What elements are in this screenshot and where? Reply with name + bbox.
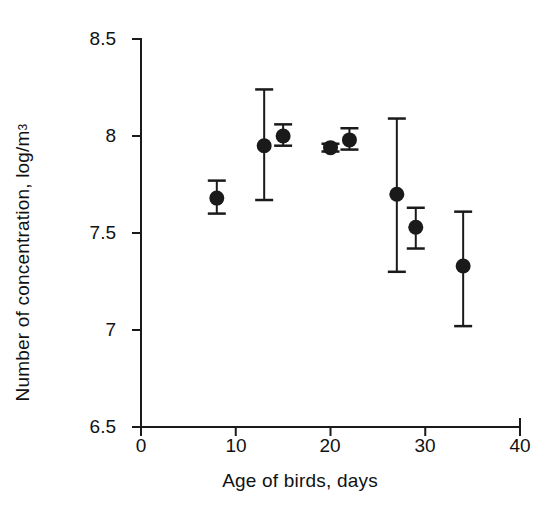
data-point-6 bbox=[407, 208, 425, 249]
marker-3 bbox=[323, 140, 338, 155]
data-point-4 bbox=[340, 128, 358, 149]
marker-4 bbox=[342, 132, 357, 147]
figure-container: Number of concentration, log/m3 Age of b… bbox=[0, 0, 554, 525]
plot-svg bbox=[0, 0, 554, 525]
data-point-7 bbox=[454, 212, 472, 326]
data-point-3 bbox=[322, 140, 340, 155]
data-point-2 bbox=[274, 124, 292, 145]
marker-7 bbox=[456, 258, 471, 273]
data-point-5 bbox=[388, 119, 406, 272]
marker-6 bbox=[408, 220, 423, 235]
marker-2 bbox=[276, 129, 291, 144]
marker-1 bbox=[257, 138, 272, 153]
data-point-1 bbox=[255, 89, 273, 200]
data-point-0 bbox=[208, 181, 226, 214]
data-series-points bbox=[208, 89, 472, 326]
axis-ticks bbox=[132, 39, 520, 436]
marker-5 bbox=[389, 187, 404, 202]
marker-0 bbox=[209, 191, 224, 206]
